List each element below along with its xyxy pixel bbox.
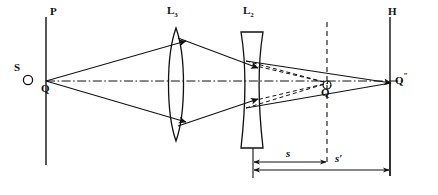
intermediate-image-point-label: Q′ — [321, 85, 332, 98]
object-plane-label: P — [50, 6, 57, 17]
optics-diagram-canvas — [0, 0, 438, 195]
dimension-s-prime-label: s′ — [335, 153, 342, 164]
ray-lower-between-lenses — [178, 99, 258, 126]
ray-lower-incident — [46, 81, 186, 122]
optics-figure: P H L3 L2 S Q Q′ Q″ s s′ — [0, 0, 438, 195]
converging-lens-label: L3 — [167, 5, 178, 19]
final-image-point-label-prime: ″ — [404, 72, 408, 81]
diverging-lens-shape — [241, 32, 263, 148]
final-image-point-label-text: Q — [395, 74, 404, 86]
dimension-s-label: s — [286, 148, 290, 159]
converging-lens-label-subscript: 3 — [174, 11, 178, 19]
virtual-ray-lower — [252, 83, 328, 101]
object-point-label: Q — [41, 83, 50, 94]
diverging-lens-label-subscript: 2 — [250, 11, 254, 19]
ray-upper-refracted — [246, 61, 391, 83]
ray-upper-between-lenses — [178, 38, 258, 68]
intermediate-image-point-label-text: Q — [321, 86, 330, 98]
image-plane-label: H — [388, 6, 397, 17]
ray-upper-incident — [46, 41, 186, 81]
ray-lower-refracted — [246, 83, 391, 108]
diverging-lens-label: L2 — [243, 5, 254, 19]
final-image-point-label: Q″ — [395, 73, 408, 86]
source-point-label: S — [14, 62, 20, 73]
source-point-marker — [23, 75, 32, 84]
intermediate-image-point-label-prime: ′ — [330, 84, 332, 93]
